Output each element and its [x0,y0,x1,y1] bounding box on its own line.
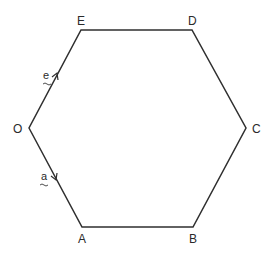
hexagon-diagram: a e O A B C D E [0,0,274,256]
hexagon-svg: a e O A B C D E [0,0,274,256]
vertex-label-c: C [252,122,261,136]
vector-a-label: a [41,170,48,182]
vector-e-label: e [43,69,49,81]
vertex-label-b: B [189,232,197,246]
vertex-label-d: D [188,14,197,28]
vertex-label-o: O [13,122,22,136]
vertex-label-e: E [77,14,85,28]
vector-e-tilde [43,83,51,85]
vertex-label-a: A [78,232,86,246]
hexagon-outline [29,30,246,227]
vector-a-tilde [40,184,48,186]
